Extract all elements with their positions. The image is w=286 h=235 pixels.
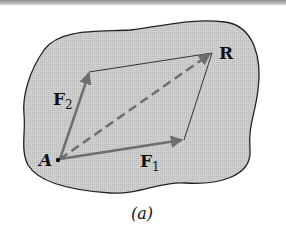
parallelogram-diagram: A F1 F2 R (a) — [0, 0, 286, 235]
figure: A F1 F2 R (a) — [0, 0, 286, 235]
label-f1-sub: 1 — [152, 160, 160, 174]
label-f2-main: F — [53, 89, 65, 109]
label-resultant: R — [219, 43, 234, 63]
label-f1-main: F — [140, 151, 152, 171]
point-a-dot — [56, 158, 60, 162]
label-point-a: A — [37, 150, 52, 170]
figure-caption: (a) — [131, 204, 153, 223]
label-f2-sub: 2 — [65, 98, 73, 112]
